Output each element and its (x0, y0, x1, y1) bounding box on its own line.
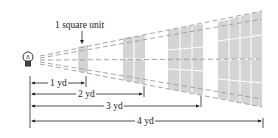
dim-label-1yd: 1 yd (50, 78, 67, 88)
inverse-square-diagram: 1 square unit 1 yd 2 yd 3 yd 4 yd (0, 0, 278, 138)
light-bulb-icon (23, 52, 33, 66)
dim-label-4yd: 4 yd (137, 116, 154, 126)
dim-label-3yd: 3 yd (106, 101, 123, 111)
panel-2yd (123, 35, 145, 84)
square-unit-label: 1 square unit (55, 20, 104, 30)
dim-label-2yd: 2 yd (78, 89, 95, 99)
